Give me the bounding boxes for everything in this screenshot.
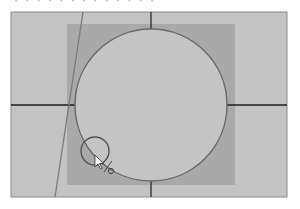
drawing-canvas[interactable] [0, 0, 300, 209]
